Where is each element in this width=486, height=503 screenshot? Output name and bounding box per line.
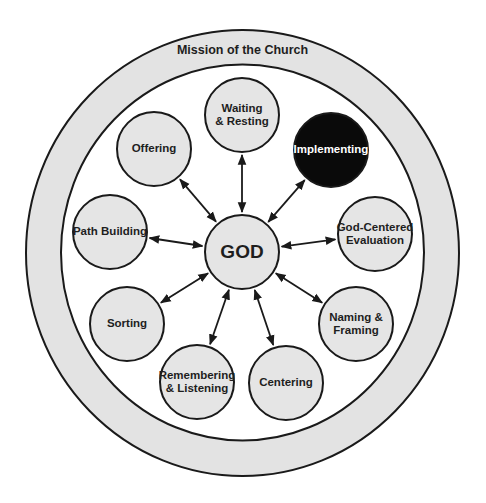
node-label: Remembering bbox=[159, 369, 236, 381]
node-label: & Listening bbox=[166, 382, 229, 394]
node-label: Offering bbox=[132, 142, 177, 154]
node-label: Evaluation bbox=[346, 234, 404, 246]
node-waiting-resting: Waiting& Resting bbox=[205, 78, 279, 152]
node-centering: Centering bbox=[249, 346, 323, 420]
node-label: Path Building bbox=[73, 225, 147, 237]
node-offering: Offering bbox=[117, 112, 191, 186]
mission-diagram: Mission of the Church Waiting& RestingIm… bbox=[0, 0, 486, 503]
node-sorting: Sorting bbox=[90, 287, 164, 361]
ring-title: Mission of the Church bbox=[177, 43, 308, 57]
center-node: GOD bbox=[205, 215, 279, 289]
node-label: Centering bbox=[259, 376, 313, 388]
node-remembering-listening: Remembering& Listening bbox=[159, 345, 236, 419]
node-label: Framing bbox=[333, 324, 378, 336]
node-path-building: Path Building bbox=[73, 195, 147, 269]
node-label: God-Centered bbox=[337, 221, 414, 233]
node-label: & Resting bbox=[215, 115, 269, 127]
node-label: Implementing bbox=[294, 143, 369, 155]
node-label: Sorting bbox=[107, 317, 147, 329]
node-implementing: Implementing bbox=[294, 113, 369, 187]
center-node-label: GOD bbox=[220, 241, 263, 262]
node-god-centered-evaluation: God-CenteredEvaluation bbox=[337, 197, 414, 271]
node-label: Naming & bbox=[329, 311, 383, 323]
node-label: Waiting bbox=[221, 102, 262, 114]
node-naming-framing: Naming &Framing bbox=[319, 287, 393, 361]
